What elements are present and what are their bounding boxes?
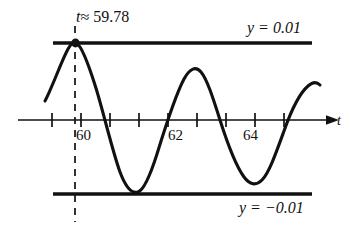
touch-point-marker <box>71 39 80 48</box>
x-tick-label-62: 62 <box>168 128 183 143</box>
x-tick-label-60: 60 <box>76 128 91 143</box>
figure-container: t≈ 59.78 y = 0.01 y = −0.01 60 62 64 t <box>0 0 363 233</box>
lower-bound-label: y = −0.01 <box>239 200 304 216</box>
upper-bound-label: y = 0.01 <box>247 20 301 36</box>
lower-bound-label-text: y = −0.01 <box>239 199 304 216</box>
callout-relation: ≈ <box>80 8 89 25</box>
plot-canvas <box>0 0 363 233</box>
upper-bound-label-text: y = 0.01 <box>247 19 301 36</box>
callout-label: t≈ 59.78 <box>76 9 129 25</box>
oscillation-curve <box>45 43 320 193</box>
x-axis-label: t <box>337 114 341 128</box>
callout-value: 59.78 <box>93 8 129 25</box>
x-tick-label-64: 64 <box>243 128 258 143</box>
